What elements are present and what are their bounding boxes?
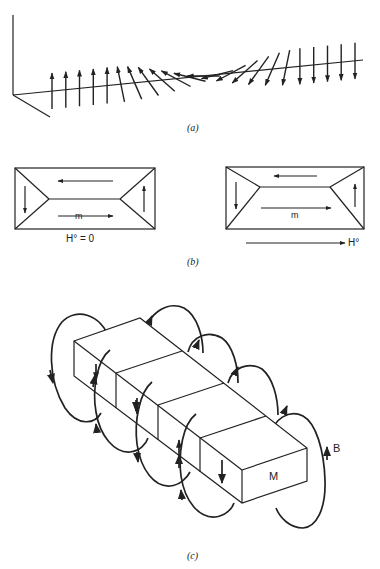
depth-axis [13, 95, 50, 117]
field-label-B: B [333, 442, 340, 454]
caption-c: (c) [187, 550, 198, 561]
spin-arrows [52, 43, 355, 109]
moment-label-left: m [75, 211, 83, 221]
spin-arrow-icon [249, 56, 269, 84]
spin-arrow-icon [232, 61, 257, 83]
panel-b-left-closure-domains [15, 168, 155, 229]
panel-a-domain-wall [13, 15, 363, 117]
caption-b: (b) [187, 256, 199, 267]
spin-arrow-icon [138, 67, 158, 95]
panel-b-right-closure-domains [226, 167, 364, 243]
figure-canvas [0, 0, 380, 569]
field-label-right: H° [348, 237, 359, 248]
panel-c-magnetized-bar [50, 306, 327, 528]
field-label-left: H° = 0 [66, 233, 94, 244]
magnetization-label: M [269, 470, 278, 482]
moment-label-right: m [291, 210, 299, 220]
caption-a: (a) [187, 122, 199, 133]
